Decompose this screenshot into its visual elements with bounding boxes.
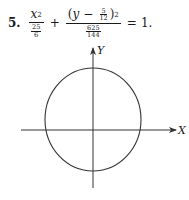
y-axis-label: Y xyxy=(97,44,106,57)
x-axis-label: X xyxy=(177,124,187,137)
graph: X Y xyxy=(0,0,189,200)
